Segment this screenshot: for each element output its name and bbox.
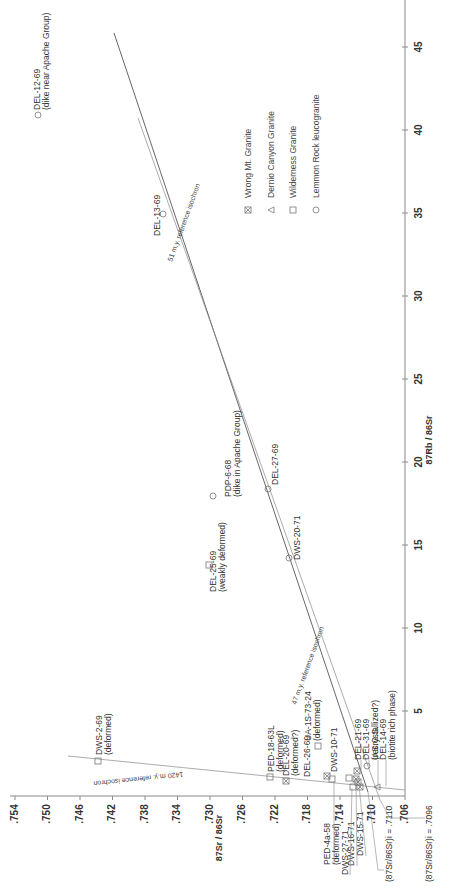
y-tick-label: .730 [204, 804, 215, 824]
x-tick-label: 35 [413, 207, 424, 219]
data-point: DEL-27-69 [265, 444, 280, 492]
x-tick-label: 25 [413, 373, 424, 385]
cross-mark [245, 207, 251, 213]
x-tick-label: 20 [413, 456, 424, 468]
x-tick-label: 5 [413, 708, 424, 714]
cross-mark [354, 768, 360, 774]
point-note: (deformed) [312, 699, 322, 741]
intercept-7110-label: (87Sr/86Sr)i = .7110 [384, 806, 394, 882]
data-point: DEL-25-69(weakly deformed) [206, 522, 227, 592]
y-tick-label: .734 [171, 804, 182, 824]
circle-symbol [210, 493, 216, 499]
y-tick-label: .750 [41, 804, 52, 824]
square-symbol [267, 774, 273, 780]
point-label: DEL-13-69 [152, 195, 162, 236]
circle-symbol [265, 486, 271, 492]
point-label: DWS-20-71 [292, 515, 302, 560]
data-point: PDP-6-68(dike in Apache Group) [210, 410, 242, 499]
y-tick-label: .742 [106, 804, 117, 824]
intercept-7110-leader [368, 792, 384, 870]
legend-label: Wrong Mt. Granite [243, 128, 253, 198]
y-tick-label: .754 [9, 804, 20, 824]
data-point: DWS-10-71 [329, 727, 352, 781]
isochron-47my [138, 118, 380, 800]
point-label: DEL-26-69 [302, 736, 312, 777]
point-label: DWS-10-71 [329, 727, 339, 772]
circle-symbol [35, 112, 41, 118]
legend-label: Wilderness Granite [288, 125, 298, 198]
circle-symbol [313, 207, 319, 213]
point-note: (deformed?) [290, 730, 300, 776]
legend-item: Wilderness Granite [288, 125, 298, 213]
point-note: (weakly deformed) [217, 522, 227, 592]
data-points: DEL-12-69(dike near Apache Group)DEL-13-… [32, 12, 397, 875]
isochron-1420-label: 1420 m.y. reference isochron [93, 770, 184, 787]
data-point: DEL-13-69 [152, 195, 166, 236]
point-note: (deformed) [103, 713, 113, 755]
cross-mark [283, 778, 289, 784]
y-axis-title: 87Sr / 86Sr [214, 814, 224, 861]
point-note: (biotite rich phase) [387, 690, 397, 760]
square-symbol [346, 775, 352, 781]
legend-item: Dernio Canyon Granite [266, 111, 276, 213]
legend-label: Lemmon Rock leucogranite [311, 94, 321, 198]
x-axis-title: 87Rb / 86Sr [424, 415, 434, 465]
y-tick-label: .726 [236, 804, 247, 824]
rb-sr-isochron-chart: 51015202530354045.706.710.714.718.722.72… [0, 0, 455, 893]
legend-label: Dernio Canyon Granite [266, 111, 276, 198]
x-tick-label: 30 [413, 290, 424, 302]
square-symbol [315, 743, 321, 749]
triangle-symbol [268, 207, 274, 213]
square-symbol [290, 207, 296, 213]
x-tick-label: 15 [413, 539, 424, 551]
legend: Wrong Mt. GraniteDernio Canyon GraniteWi… [243, 94, 321, 213]
y-tick-label: .722 [269, 804, 280, 824]
intercept-7096-label: (87Sr/86Sr)i = .7096 [424, 805, 434, 882]
legend-item: Lemmon Rock leucogranite [311, 94, 321, 213]
y-tick-label: .746 [74, 804, 85, 824]
x-tick-label: 45 [413, 41, 424, 53]
data-point: DEL-26-69 [302, 736, 330, 779]
point-note: (dike in Apache Group) [232, 410, 242, 497]
point-label: DEL-27-69 [270, 444, 280, 485]
x-tick-label: 10 [413, 622, 424, 634]
data-point: DWS-2-69(deformed) [94, 713, 113, 764]
data-point: DEL-20-69(deformed?) [281, 730, 300, 784]
y-tick-label: .718 [301, 804, 312, 824]
y-tick-label: .706 [399, 804, 410, 824]
point-note: (dike near Apache Group) [41, 12, 51, 110]
y-tick-label: .714 [334, 804, 345, 824]
data-point: DEL-12-69(dike near Apache Group) [32, 12, 51, 118]
isochron-51-label: 51 m.y. reference isochron [166, 182, 202, 262]
legend-item: Wrong Mt. Granite [243, 128, 253, 213]
x-tick-label: 40 [413, 124, 424, 136]
y-tick-label: .738 [139, 804, 150, 824]
